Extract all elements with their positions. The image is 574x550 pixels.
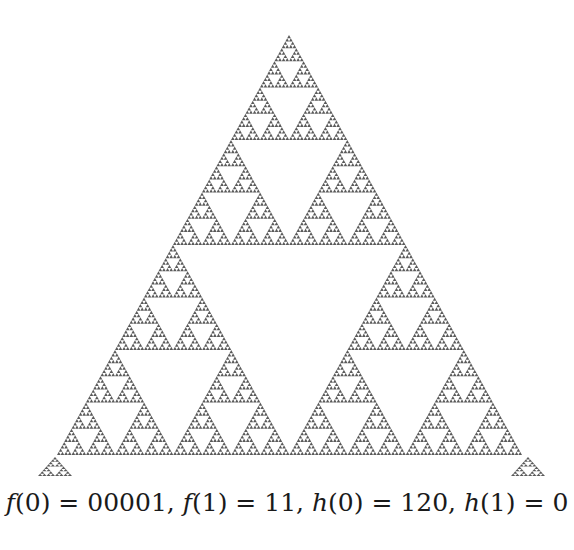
- corner-triangle-right: [511, 457, 545, 476]
- main-sierpinski-triangle: [57, 35, 522, 455]
- caption-term-4: h(1) = 0: [464, 488, 568, 517]
- corner-triangle-left: [38, 457, 72, 476]
- caption-term-1: f(0) = 00001,: [6, 488, 183, 517]
- caption-term-3: h(0) = 120,: [312, 488, 464, 517]
- figure-caption: f(0) = 00001, f(1) = 11, h(0) = 120, h(1…: [0, 488, 574, 517]
- caption-term-2: f(1) = 11,: [183, 488, 312, 517]
- sierpinski-triangle-figure: [0, 0, 574, 550]
